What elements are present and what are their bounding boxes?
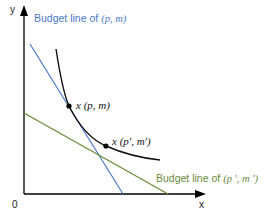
- budget-line-pm-label: Budget line of (p, m): [34, 13, 126, 25]
- x-axis-label: x: [199, 199, 204, 210]
- budget-line-pm-prime-args: (p ', m '): [223, 173, 258, 184]
- point-x-pm-prime: [103, 143, 108, 148]
- point-x-pm-prime-label: x (p', m'): [112, 136, 151, 147]
- budget-line-pm-prime-prefix: Budget line of: [156, 172, 223, 184]
- x-axis-arrow-icon: [195, 190, 206, 198]
- origin-label: 0: [12, 199, 18, 210]
- diagram-canvas: [0, 0, 264, 220]
- budget-line-pm-prime-label: Budget line of (p ', m '): [156, 173, 258, 185]
- budget-line-pm-args: (p, m): [101, 13, 126, 24]
- y-axis-arrow-icon: [20, 5, 28, 16]
- budget-line-pm-prefix: Budget line of: [34, 12, 101, 24]
- budget-line-pm-prime: [24, 113, 168, 194]
- point-x-pm-label: x (p, m): [76, 100, 110, 111]
- point-x-pm: [66, 103, 71, 108]
- y-axis-label: y: [10, 4, 15, 15]
